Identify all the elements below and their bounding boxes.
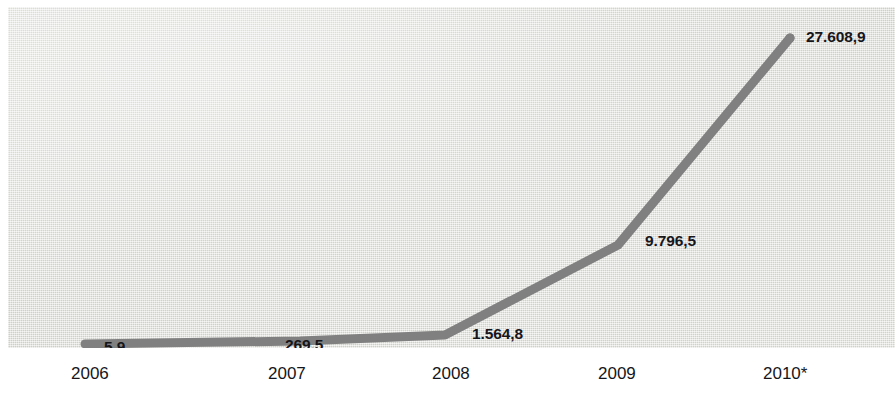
x-axis-tick-2010: 2010* <box>763 364 807 384</box>
x-axis-tick-2007: 2007 <box>268 364 306 384</box>
x-axis-tick-2008: 2008 <box>432 364 470 384</box>
x-axis-tick-2006: 2006 <box>71 364 109 384</box>
line-chart: 5,9 269,5 1.564,8 9.796,5 27.608,9 2006 … <box>0 0 895 402</box>
value-label-2008: 1.564,8 <box>472 325 523 343</box>
x-axis-tick-2009: 2009 <box>598 364 636 384</box>
value-label-2010: 27.608,9 <box>806 28 866 46</box>
chart-plot-area <box>8 7 895 348</box>
x-axis: 2006 2007 2008 2009 2010* <box>0 348 895 402</box>
value-label-2009: 9.796,5 <box>645 232 696 250</box>
